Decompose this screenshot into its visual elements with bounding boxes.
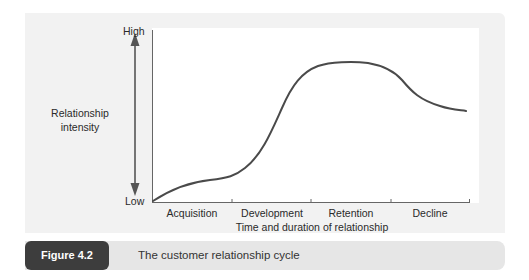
relationship-cycle-chart (0, 0, 529, 280)
phase-label-development: Development (232, 207, 312, 219)
y-axis-low-label: Low (125, 195, 144, 207)
x-axis-title: Time and duration of relationship (152, 221, 472, 233)
y-axis-title: Relationship intensity (30, 106, 130, 134)
figure-caption: Figure 4.2 The customer relationship cyc… (25, 241, 505, 270)
figure-number-badge: Figure 4.2 (25, 241, 109, 270)
intensity-arrow-icon (131, 33, 140, 196)
y-axis-title-line2: intensity (30, 120, 130, 134)
caption-text: The customer relationship cycle (138, 241, 300, 270)
phase-label-retention: Retention (311, 207, 391, 219)
relationship-curve (153, 62, 466, 201)
y-axis-title-line1: Relationship (30, 106, 130, 120)
phase-label-decline: Decline (390, 207, 470, 219)
y-axis-high-label: High (123, 25, 145, 37)
phase-label-acquisition: Acquisition (152, 207, 232, 219)
